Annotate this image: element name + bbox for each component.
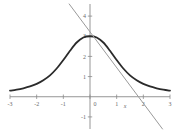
y-axis-tick-labels: -11234 <box>81 13 86 120</box>
x-tick-label: 1 <box>115 101 118 107</box>
cartesian-plot: -3-2-10123 -11234 x <box>0 0 178 135</box>
annotations-group: x <box>123 103 127 109</box>
y-tick-label: 1 <box>83 74 86 80</box>
chart-figure: -3-2-10123 -11234 x <box>0 0 178 135</box>
x-tick-label: 0 <box>94 101 97 107</box>
x-axis-label: x <box>123 103 127 109</box>
x-tick-label: 3 <box>169 101 172 107</box>
y-tick-label: -1 <box>81 114 86 120</box>
series-straight-line <box>69 4 162 129</box>
x-tick-label: -1 <box>61 101 66 107</box>
y-tick-label: 2 <box>83 54 86 60</box>
x-axis-tick-labels: -3-2-10123 <box>8 101 172 107</box>
y-tick-label: 4 <box>83 13 86 19</box>
axes-group <box>10 4 170 129</box>
x-tick-label: -2 <box>34 101 39 107</box>
x-tick-label: -3 <box>8 101 13 107</box>
